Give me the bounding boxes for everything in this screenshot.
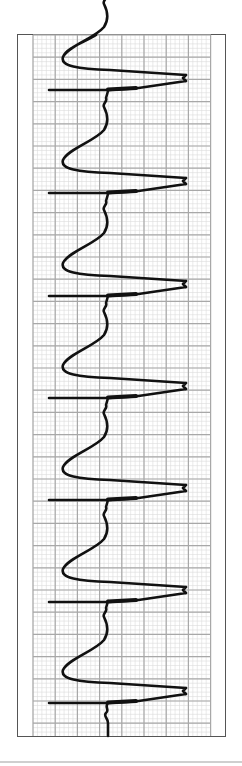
separator-line — [0, 761, 242, 763]
ecg-strip — [0, 0, 242, 766]
